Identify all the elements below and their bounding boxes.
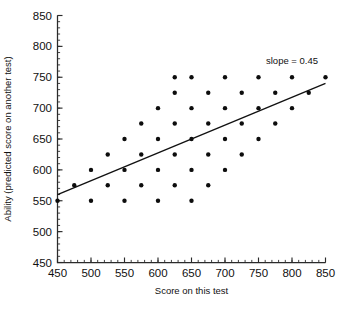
x-tick-label: 450 (48, 267, 67, 279)
data-point (206, 183, 210, 187)
data-point (106, 152, 110, 156)
data-point (307, 90, 311, 94)
y-tick-label: 700 (33, 102, 52, 114)
data-point (139, 121, 143, 125)
data-point (122, 137, 126, 141)
x-tick-label: 850 (316, 267, 335, 279)
data-point (55, 199, 59, 203)
y-tick-label: 600 (33, 164, 52, 176)
x-tick-label: 650 (182, 267, 201, 279)
data-point (240, 152, 244, 156)
data-point (189, 137, 193, 141)
data-point (323, 75, 327, 79)
x-tick-label: 700 (215, 267, 234, 279)
data-point (139, 152, 143, 156)
data-point (206, 121, 210, 125)
data-point (206, 152, 210, 156)
data-point (156, 199, 160, 203)
data-points (55, 75, 327, 203)
data-point (173, 121, 177, 125)
data-point (89, 199, 93, 203)
data-point (240, 121, 244, 125)
data-point (256, 75, 260, 79)
data-point (139, 183, 143, 187)
data-point (223, 75, 227, 79)
x-tick-label: 500 (81, 267, 100, 279)
slope-annotation: slope = 0.45 (266, 55, 318, 66)
data-point (223, 168, 227, 172)
data-point (273, 121, 277, 125)
y-tick-label: 550 (33, 195, 52, 207)
y-axis-title: Ability (predicted score on another test… (2, 56, 13, 221)
data-point (156, 137, 160, 141)
plot-canvas: 4505005506006507007508008504505005506006… (0, 0, 358, 315)
y-tick-label: 650 (33, 133, 52, 145)
x-tick-label: 750 (249, 267, 268, 279)
y-tick-label: 850 (33, 10, 52, 22)
y-tick-label: 800 (33, 40, 52, 52)
data-point (173, 90, 177, 94)
data-point (173, 152, 177, 156)
x-axis-title: Score on this test (155, 285, 229, 296)
y-tick-label: 750 (33, 71, 52, 83)
data-point (122, 199, 126, 203)
data-point (206, 90, 210, 94)
data-point (173, 183, 177, 187)
y-tick-label: 500 (33, 226, 52, 238)
x-tick-labels: 450500550600650700750800850 (48, 267, 335, 279)
data-point (256, 106, 260, 110)
data-point (223, 106, 227, 110)
data-point (189, 199, 193, 203)
scatter-plot-figure: 4505005506006507007508008504505005506006… (0, 0, 358, 315)
data-point (290, 106, 294, 110)
x-tick-label: 600 (148, 267, 167, 279)
x-tick-label: 800 (282, 267, 301, 279)
data-point (189, 75, 193, 79)
data-point (89, 168, 93, 172)
data-point (189, 106, 193, 110)
data-point (156, 106, 160, 110)
data-point (173, 75, 177, 79)
y-tick-labels: 450500550600650700750800850 (33, 10, 52, 269)
data-point (189, 168, 193, 172)
data-point (72, 183, 76, 187)
data-point (223, 137, 227, 141)
data-point (156, 168, 160, 172)
data-point (273, 90, 277, 94)
data-point (106, 183, 110, 187)
data-point (290, 75, 294, 79)
data-point (122, 168, 126, 172)
x-tick-label: 550 (115, 267, 134, 279)
data-point (240, 90, 244, 94)
y-tick-label: 450 (33, 257, 52, 269)
data-point (256, 137, 260, 141)
